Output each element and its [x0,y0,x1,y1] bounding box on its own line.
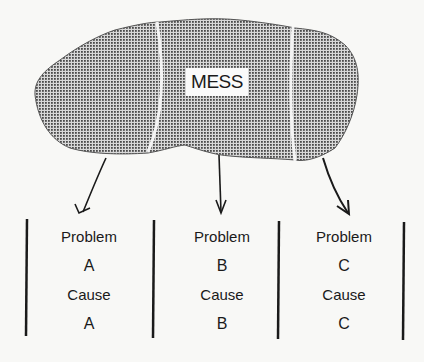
cause-id: A [34,309,144,338]
cause-label: Cause [34,280,144,309]
column-b: Problem B Cause B [167,222,277,338]
column-divider-4 [403,222,404,340]
problem-id: C [289,251,399,280]
problem-label: Problem [289,222,399,251]
cause-id: B [167,309,277,338]
column-divider-1 [26,219,27,336]
mess-label: MESS [186,68,248,96]
arrowhead-left-icon [75,204,90,213]
problem-id: B [167,251,277,280]
column-divider-3 [278,221,279,339]
arrowhead-right-icon [337,200,349,214]
problem-id: A [34,251,144,280]
cause-id: C [289,309,399,338]
arrow-right [323,158,348,213]
column-c: Problem C Cause C [289,222,399,338]
cause-label: Cause [167,280,277,309]
cause-label: Cause [289,280,399,309]
arrow-left [83,158,106,212]
column-divider-2 [153,220,154,338]
column-a: Problem A Cause A [34,222,144,338]
problem-label: Problem [167,222,277,251]
arrow-middle [219,155,221,212]
problem-label: Problem [34,222,144,251]
